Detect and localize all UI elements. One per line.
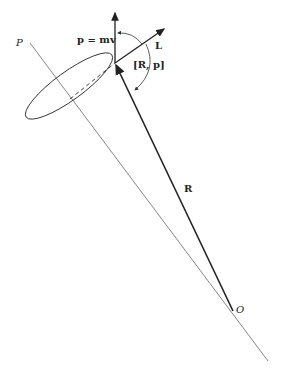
axis-line: [30, 43, 268, 361]
label-L: L: [155, 41, 162, 51]
diagram-canvas: [0, 0, 281, 372]
label-commutator: [R, p]: [133, 60, 165, 70]
position-vector-R: [116, 65, 233, 311]
orbit-ellipse: [18, 44, 120, 129]
label-P: P: [16, 38, 23, 48]
label-momentum: p = mv: [77, 35, 116, 45]
label-R: R: [184, 184, 192, 194]
angle-arc-p-L: [118, 33, 142, 44]
label-O: O: [236, 305, 244, 315]
